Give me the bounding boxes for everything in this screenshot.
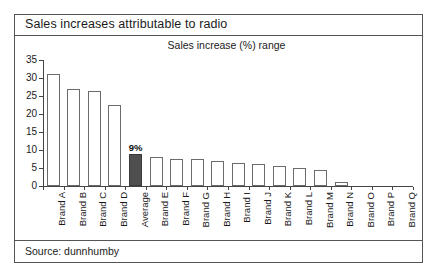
x-tick-mark — [84, 187, 85, 190]
bar — [67, 89, 80, 186]
bar — [88, 91, 101, 186]
y-tick-label: 10 — [26, 143, 37, 156]
bar — [232, 163, 245, 186]
x-tick-label: Brand G — [201, 192, 211, 227]
y-tick-label: 25 — [26, 89, 37, 102]
x-tick-mark — [64, 187, 65, 190]
y-tick-mark — [39, 60, 43, 61]
y-tick-mark — [39, 168, 43, 169]
bar — [273, 166, 286, 186]
bar — [191, 159, 204, 186]
x-tick-label: Average — [140, 192, 150, 227]
y-tick-mark — [39, 150, 43, 151]
page-title: Sales increases attributable to radio — [25, 17, 227, 31]
bar-value-label: 9% — [129, 142, 143, 153]
y-tick-label: 0 — [31, 179, 37, 192]
y-tick-mark — [39, 132, 43, 133]
y-tick-label: 35 — [26, 53, 37, 66]
bar — [150, 157, 163, 186]
x-tick-label: Brand M — [325, 192, 335, 228]
y-tick-label: 15 — [26, 125, 37, 138]
source-note: Source: dunnhumby — [25, 245, 119, 257]
y-tick-mark — [39, 96, 43, 97]
x-tick-mark — [392, 187, 393, 190]
bar — [211, 161, 224, 186]
x-tick-label: Brand O — [366, 192, 376, 227]
bar — [314, 170, 327, 186]
x-tick-mark — [290, 187, 291, 190]
plot-band: Sales increase (%) range 05101520253035 … — [15, 36, 422, 240]
x-tick-label: Brand E — [160, 192, 170, 226]
y-tick-label: 30 — [26, 71, 37, 84]
y-tick-mark — [39, 114, 43, 115]
x-tick-label: Brand P — [386, 192, 396, 226]
x-tick-mark — [43, 187, 44, 190]
bar — [293, 168, 306, 186]
bar — [335, 182, 348, 186]
x-tick-label: Brand B — [78, 192, 88, 226]
x-tick-label: Brand H — [222, 192, 232, 227]
y-tick-label: 20 — [26, 107, 37, 120]
x-tick-mark — [310, 187, 311, 190]
x-tick-label: Brand L — [304, 192, 314, 225]
x-tick-label: Brand J — [263, 192, 273, 225]
x-tick-label: Brand I — [242, 192, 252, 223]
x-tick-mark — [125, 187, 126, 190]
x-tick-mark — [187, 187, 188, 190]
x-tick-mark — [146, 187, 147, 190]
chart-figure: Sales increases attributable to radio Sa… — [14, 14, 423, 263]
y-tick-mark — [39, 78, 43, 79]
x-tick-label: Brand K — [283, 192, 293, 226]
x-tick-label: Brand Q — [407, 192, 417, 227]
bar — [108, 105, 121, 186]
x-tick-label: Brand D — [119, 192, 129, 227]
x-tick-label: Brand F — [181, 192, 191, 226]
x-tick-mark — [331, 187, 332, 190]
x-tick-mark — [372, 187, 373, 190]
x-tick-mark — [269, 187, 270, 190]
y-axis — [43, 60, 44, 186]
x-tick-mark — [166, 187, 167, 190]
chart-subtitle: Sales increase (%) range — [15, 39, 422, 51]
x-tick-mark — [207, 187, 208, 190]
x-tick-mark — [249, 187, 250, 190]
bar: 9% — [129, 154, 142, 186]
x-tick-mark — [105, 187, 106, 190]
x-tick-label: Brand C — [98, 192, 108, 227]
x-tick-mark — [413, 187, 414, 190]
bar — [47, 74, 60, 186]
plot-area: 05101520253035 9% Brand ABrand BBrand CB… — [43, 60, 413, 186]
bar — [252, 164, 265, 186]
title-band: Sales increases attributable to radio — [15, 15, 422, 36]
y-tick-label: 5 — [31, 161, 37, 174]
source-band: Source: dunnhumby — [15, 240, 422, 262]
x-tick-mark — [228, 187, 229, 190]
bar — [170, 159, 183, 186]
x-tick-label: Brand N — [345, 192, 355, 227]
x-tick-label: Brand A — [57, 192, 67, 226]
x-tick-mark — [351, 187, 352, 190]
